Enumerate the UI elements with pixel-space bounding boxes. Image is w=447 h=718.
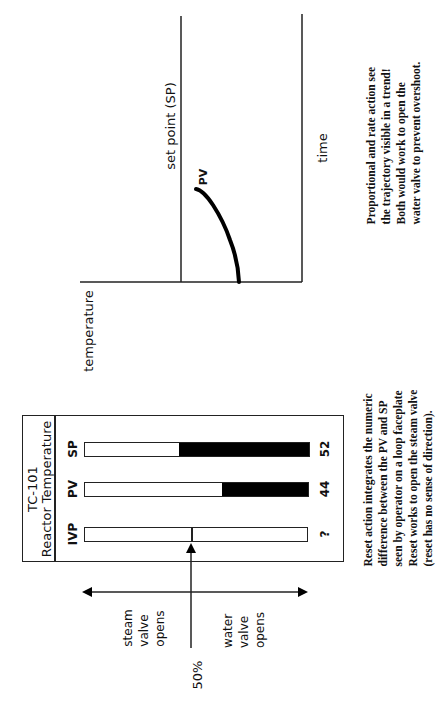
pv-bar: [84, 482, 309, 497]
trend-note-line: Proportional and rate action see: [364, 62, 379, 225]
sp-bar-fill: [179, 443, 309, 456]
label-line: opens: [252, 612, 268, 648]
ivp-bar: [84, 527, 308, 542]
reset-note-line: Reset action integrates the numeric: [361, 390, 376, 567]
reset-note-line: difference between the PV and SP: [376, 390, 391, 567]
label-line: valve: [136, 609, 152, 646]
faceplate-header-divider: [54, 415, 56, 562]
ivp-value: ?: [318, 531, 332, 538]
label-line: steam: [120, 609, 136, 646]
reset-note-line: seen by operator on a loop faceplate: [391, 390, 406, 567]
reset-note: Reset action integrates the numeric diff…: [361, 390, 436, 567]
sp-value: 52: [318, 441, 332, 458]
ivp-bar-label: IVP: [66, 523, 80, 546]
arrowhead-left: [82, 587, 92, 597]
setpoint-label: set point (SP): [163, 82, 178, 170]
trend-note: Proportional and rate action see the tra…: [364, 62, 424, 225]
sp-bar-label: SP: [66, 440, 80, 457]
reset-note-line: (reset has no sense of direction).: [421, 390, 436, 567]
arrowhead-right: [298, 587, 308, 597]
water-valve-opens-label: water valve opens: [220, 612, 268, 648]
label-line: opens: [152, 609, 168, 646]
midpoint-50-percent-label: 50%: [190, 661, 205, 690]
trend-note-line: Both would work to open the: [394, 62, 409, 225]
trend-note-line: the trajectory visible in a trend!: [379, 62, 394, 225]
time-axis-label: time: [315, 133, 330, 162]
pv-curve: [196, 189, 239, 282]
steam-valve-opens-label: steam valve opens: [120, 609, 168, 646]
pv-bar-fill: [222, 483, 308, 496]
faceplate-tag: TC-101: [25, 466, 40, 512]
faceplate-description: Reactor Temperature: [39, 421, 54, 557]
pv-bar-label: PV: [66, 480, 80, 498]
ivp-midpoint-marker: [191, 528, 193, 541]
temperature-axis-label: temperature: [81, 290, 96, 372]
sp-bar: [84, 442, 310, 457]
label-line: valve: [236, 612, 252, 648]
reset-note-line: Reset works to open the steam valve: [406, 390, 421, 567]
pv-value: 44: [318, 481, 332, 498]
pv-curve-label: PV: [197, 169, 210, 186]
trend-note-line: water valve to prevent overshoot.: [409, 62, 424, 225]
label-line: water: [220, 612, 236, 648]
